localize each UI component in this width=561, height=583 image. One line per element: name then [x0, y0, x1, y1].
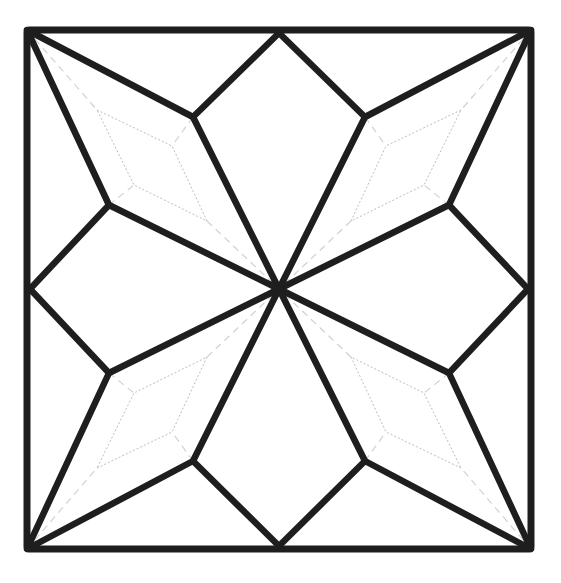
quilt-diagram [0, 0, 561, 583]
left-kite [30, 205, 109, 373]
bottom-kite [193, 461, 365, 546]
star-petals [27, 30, 531, 549]
right-kite [449, 205, 528, 373]
diagram-canvas [0, 0, 561, 583]
top-kite [193, 33, 365, 117]
